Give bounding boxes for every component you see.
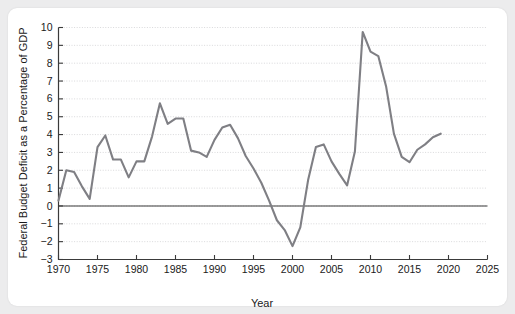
screenshot-root: 1970197519801985199019952000200520102015… bbox=[0, 0, 515, 314]
y-tick-labels-group: −3−2−1012345678910 bbox=[41, 21, 53, 265]
axis-frame bbox=[59, 28, 488, 260]
y-tick-label-7: 7 bbox=[47, 75, 53, 87]
tick-marks-group bbox=[59, 28, 488, 260]
x-tick-label-2020: 2020 bbox=[437, 263, 461, 275]
y-tick-label--1: −1 bbox=[41, 217, 53, 229]
y-tick-label-0: 0 bbox=[47, 200, 53, 212]
deficit-line-chart: 1970197519801985199019952000200520102015… bbox=[0, 0, 515, 314]
y-tick-label-3: 3 bbox=[47, 146, 53, 158]
x-tick-label-1995: 1995 bbox=[242, 263, 266, 275]
y-tick-label-10: 10 bbox=[41, 21, 53, 33]
x-tick-label-2005: 2005 bbox=[320, 263, 344, 275]
deficit-series-line bbox=[59, 32, 441, 246]
y-tick-label-8: 8 bbox=[47, 57, 53, 69]
y-tick-label-9: 9 bbox=[47, 39, 53, 51]
x-tick-label-2000: 2000 bbox=[281, 263, 305, 275]
y-tick-label--2: −2 bbox=[41, 235, 53, 247]
x-tick-label-1985: 1985 bbox=[164, 263, 188, 275]
x-tick-label-2010: 2010 bbox=[359, 263, 383, 275]
x-tick-label-1990: 1990 bbox=[203, 263, 227, 275]
x-tick-label-1975: 1975 bbox=[86, 263, 110, 275]
y-tick-label-6: 6 bbox=[47, 92, 53, 104]
y-tick-label-2: 2 bbox=[47, 164, 53, 176]
y-tick-label-1: 1 bbox=[47, 182, 53, 194]
y-tick-label--3: −3 bbox=[41, 253, 53, 265]
y-tick-label-4: 4 bbox=[47, 128, 53, 140]
x-axis-title: Year bbox=[251, 297, 274, 309]
x-tick-label-2015: 2015 bbox=[398, 263, 422, 275]
y-tick-label-5: 5 bbox=[47, 110, 53, 122]
y-axis-title: Federal Budget Deficit as a Percentage o… bbox=[17, 27, 29, 258]
x-tick-label-1980: 1980 bbox=[125, 263, 149, 275]
axes-group bbox=[59, 28, 488, 260]
x-tick-label-2025: 2025 bbox=[476, 263, 500, 275]
x-tick-labels-group: 1970197519801985199019952000200520102015… bbox=[47, 263, 500, 275]
